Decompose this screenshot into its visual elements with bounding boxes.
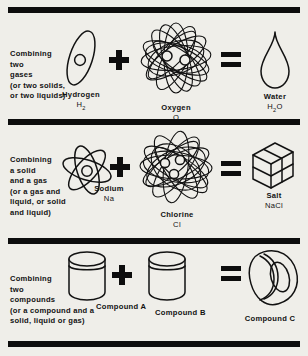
jar-icon — [64, 250, 110, 302]
reactant-label-oxygen: Oxygen O — [150, 103, 202, 123]
reaction-row-gases: Combining two gases (or two solids, or t… — [0, 13, 308, 119]
divider-bottom — [8, 341, 300, 347]
reactant-label-compound-b: Compound B — [155, 308, 219, 318]
water-droplet-icon — [255, 31, 295, 91]
torus-icon — [247, 248, 301, 306]
reactant-formula: O — [150, 113, 202, 123]
reactant-name: Oxygen — [161, 103, 191, 112]
reactant-name: Chlorine — [160, 210, 193, 219]
reactant-name: Sodium — [94, 184, 124, 193]
reactant-label-compound-a: Compound A — [96, 302, 156, 312]
reactant-name: Compound A — [96, 302, 146, 311]
product-formula: NaCl — [247, 201, 301, 211]
salt-cube-icon — [249, 138, 297, 192]
reactant-formula: Cl — [150, 220, 204, 230]
reactant-label-hydrogen: Hydrogen H2 — [58, 90, 104, 113]
chlorine-atom-icon — [134, 127, 218, 207]
chemical-combination-figure: Combining two gases (or two solids, or t… — [0, 0, 308, 356]
reactant-label-sodium: Sodium Na — [85, 184, 133, 204]
oxygen-atom-icon — [134, 19, 218, 97]
reaction-row-solid-gas: Combining a solid and a gas (or a gas an… — [0, 125, 308, 238]
jar-icon — [144, 250, 190, 302]
reactant-formula: Na — [85, 194, 133, 204]
reactant-label-chlorine: Chlorine Cl — [150, 210, 204, 230]
row-description: Combining a solid and a gas (or a gas an… — [10, 155, 66, 219]
product-name: Compound C — [245, 314, 296, 323]
reaction-row-compounds: Combining two compounds (or a compound a… — [0, 244, 308, 341]
reactant-name: Compound B — [155, 308, 206, 317]
product-label-salt: Salt NaCl — [247, 191, 301, 211]
product-formula: H2O — [247, 102, 303, 115]
reactant-formula: H2 — [58, 100, 104, 113]
hydrogen-atom-icon — [58, 27, 104, 89]
product-label-compound-c: Compound C — [236, 314, 304, 324]
product-label-water: Water H2O — [247, 92, 303, 115]
product-name: Water — [264, 92, 286, 101]
product-name: Salt — [266, 191, 281, 200]
reactant-name: Hydrogen — [62, 90, 100, 99]
